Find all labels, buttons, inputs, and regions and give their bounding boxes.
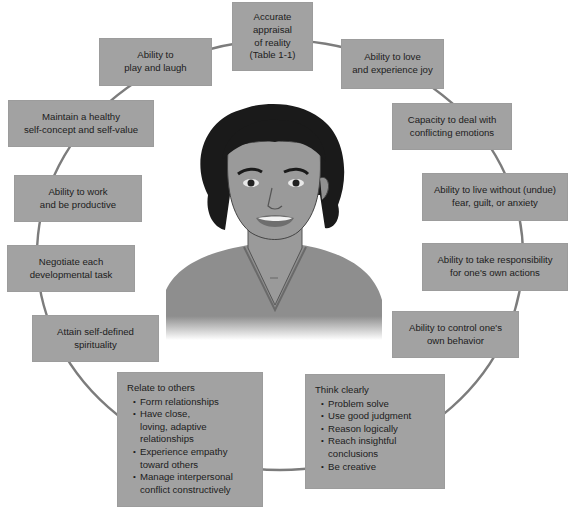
bullet-list: Problem solve Use good judgment Reason l… (315, 398, 411, 474)
node-label: Maintain a healthy self-concept and self… (24, 111, 138, 136)
portrait-illustration (160, 100, 390, 340)
node-title: Think clearly (315, 384, 411, 397)
node-label: Accurate appraisal of reality (Table 1-1… (250, 11, 296, 61)
bullet-item: Experience empathy toward others (133, 446, 233, 471)
bullet-item: Reach insightful conclusions (321, 435, 411, 460)
node-think-clearly: Think clearly Problem solve Use good jud… (305, 374, 445, 489)
bullet-item: Use good judgment (321, 410, 411, 423)
node-label: Ability to live without (undue) fear, gu… (434, 184, 556, 209)
node-title: Relate to others (127, 382, 233, 395)
node-label: Ability to control one's own behavior (409, 322, 502, 347)
bullet-item: Have close, loving, adaptive relationshi… (133, 408, 233, 446)
node-take-responsibility: Ability to take responsibility for one's… (422, 243, 568, 291)
node-label: Capacity to deal with conflicting emotio… (408, 114, 497, 139)
node-accurate-appraisal: Accurate appraisal of reality (Table 1-1… (232, 2, 313, 71)
bullet-item: Be creative (321, 461, 411, 474)
node-work-productive: Ability to work and be productive (14, 175, 142, 222)
node-conflicting-emotions: Capacity to deal with conflicting emotio… (392, 103, 512, 150)
node-relate-to-others: Relate to others Form relationships Have… (117, 372, 263, 507)
node-label: Ability to love and experience joy (352, 51, 433, 76)
node-control-behavior: Ability to control one's own behavior (392, 311, 519, 358)
node-play-laugh: Ability to play and laugh (99, 38, 212, 86)
node-label: Ability to take responsibility for one's… (437, 254, 552, 279)
bullet-item: Reason logically (321, 423, 411, 436)
node-label: Ability to play and laugh (124, 49, 186, 74)
node-label: Ability to work and be productive (40, 186, 116, 211)
node-self-concept: Maintain a healthy self-concept and self… (8, 100, 154, 147)
node-love-joy: Ability to love and experience joy (341, 39, 444, 89)
node-developmental-task: Negotiate each developmental task (7, 245, 135, 292)
node-label: Negotiate each developmental task (30, 256, 113, 281)
bullet-list: Form relationships Have close, loving, a… (127, 396, 233, 497)
bullet-item: Problem solve (321, 398, 411, 411)
node-label: Attain self-defined spirituality (57, 326, 134, 351)
node-spirituality: Attain self-defined spirituality (32, 315, 159, 362)
bullet-item: Manage interpersonal conflict constructi… (133, 471, 233, 496)
bullet-item: Form relationships (133, 396, 233, 409)
node-live-without-fear: Ability to live without (undue) fear, gu… (422, 173, 568, 221)
